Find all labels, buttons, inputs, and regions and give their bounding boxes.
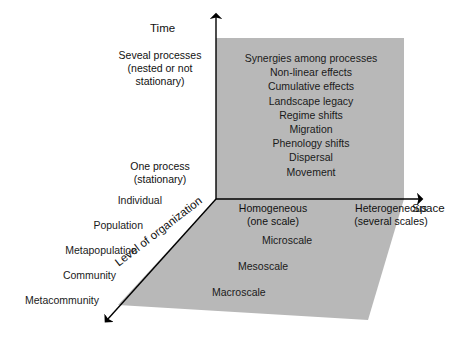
- floor-scale-mesoscale: Mesoscale: [238, 260, 288, 272]
- process-item: Phenology shifts: [218, 136, 404, 150]
- time-tick-one-process-line2: (stationary): [108, 173, 212, 186]
- space-tick-homogeneous-line2: (one scale): [216, 215, 330, 228]
- organization-tick-metacommunity: Metacommunity: [0, 294, 99, 306]
- process-item: Dispersal: [218, 150, 404, 164]
- process-item: Migration: [218, 122, 404, 136]
- organization-tick-individual: Individual: [52, 194, 162, 206]
- process-item: Movement: [218, 165, 404, 179]
- organization-tick-metapopulation: Metapopulation: [5, 244, 137, 256]
- axis-label-time: Time: [150, 21, 175, 35]
- space-tick-heterogeneous: Heterogeneous (several scales): [330, 202, 452, 228]
- organization-tick-population: Population: [33, 219, 143, 231]
- space-tick-homogeneous: Homogeneous (one scale): [216, 202, 330, 228]
- time-tick-one-process-line1: One process: [108, 160, 212, 173]
- floor-scale-macroscale: Macroscale: [212, 286, 266, 298]
- process-item: Landscape legacy: [218, 94, 404, 108]
- process-item: Non-linear effects: [218, 65, 404, 79]
- space-tick-heterogeneous-line2: (several scales): [330, 215, 452, 228]
- time-tick-several-processes: Seveal processes (nested or not stationa…: [108, 49, 212, 87]
- space-tick-homogeneous-line1: Homogeneous: [216, 202, 330, 215]
- process-item: Synergies among processes: [218, 51, 404, 65]
- space-tick-heterogeneous-line1: Heterogeneous: [330, 202, 452, 215]
- ecological-scale-diagram: Time Space Level of organization Seveal …: [0, 0, 458, 338]
- organization-tick-community: Community: [0, 269, 116, 281]
- time-tick-several-processes-line2: (nested or not: [108, 62, 212, 75]
- process-list: Synergies among processes Non-linear eff…: [218, 51, 404, 179]
- time-tick-several-processes-line1: Seveal processes: [108, 49, 212, 62]
- time-tick-one-process: One process (stationary): [108, 160, 212, 186]
- process-item: Regime shifts: [218, 108, 404, 122]
- process-item: Cumulative effects: [218, 79, 404, 93]
- time-tick-several-processes-line3: stationary): [108, 75, 212, 88]
- floor-scale-microscale: Microscale: [262, 234, 312, 246]
